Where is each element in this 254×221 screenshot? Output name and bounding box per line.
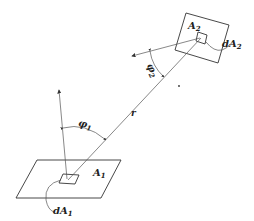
surface-a2 (175, 13, 229, 63)
view-factor-diagram: A2 dA2 φ2 r φ1 A1 dA1 (0, 0, 254, 221)
label-phi1: φ1 (77, 117, 93, 133)
label-da1: dA1 (53, 205, 73, 218)
label-r: r (131, 108, 137, 118)
normal-arrow-da1 (59, 90, 67, 179)
element-da2 (196, 32, 207, 44)
normal-arrow-da2 (132, 38, 200, 56)
label-a2: A2 (187, 20, 201, 33)
label-a1: A1 (92, 167, 106, 180)
dot-mark (178, 85, 180, 87)
